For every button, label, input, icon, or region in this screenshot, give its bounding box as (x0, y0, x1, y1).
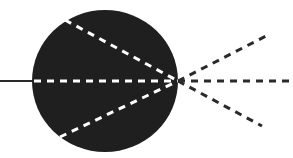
ray-diagram (0, 0, 293, 158)
